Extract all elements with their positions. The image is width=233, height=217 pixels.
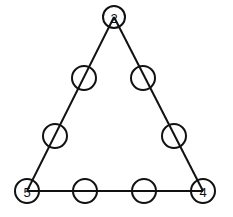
node-top-label: 2 [110, 11, 117, 26]
edge-right-side [114, 17, 203, 191]
diagram-canvas: 2 5 [0, 0, 233, 217]
nodes: 2 5 [15, 6, 215, 203]
triangle-diagram: 2 5 [0, 0, 233, 217]
edge-left-side [27, 17, 114, 191]
edges [27, 17, 203, 191]
node-bottom-right-label: 4 [199, 185, 206, 200]
node-bottom-left-label: 5 [23, 185, 30, 200]
node-right-upper-circle [131, 66, 155, 90]
node-top: 2 [103, 6, 125, 28]
node-right-upper [131, 66, 155, 90]
